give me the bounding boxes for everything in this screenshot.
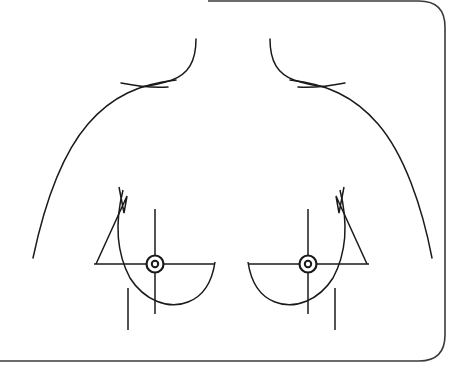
diagram-root: Female torso breast self-examination dia…	[0, 0, 466, 386]
breast-examination-diagram: Female torso breast self-examination dia…	[0, 0, 466, 386]
right-nipple-dot	[305, 261, 311, 267]
background-rect	[0, 0, 466, 386]
left-nipple-dot	[152, 261, 158, 267]
